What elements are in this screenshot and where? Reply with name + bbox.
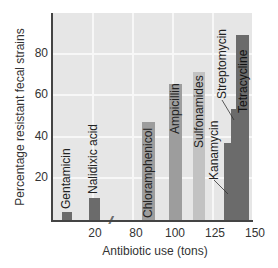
x-tick-125: 125 bbox=[200, 226, 230, 240]
y-tick-60: 60 bbox=[28, 88, 48, 100]
label-ampicillin: Ampicillin bbox=[169, 83, 182, 134]
y-tick-20: 20 bbox=[28, 171, 48, 183]
label-nalidixic-acid: Nalidixic acid bbox=[87, 124, 100, 194]
y-axis-label: Percentage resistant fecal strains bbox=[13, 28, 27, 205]
bar-nalidixic-acid bbox=[89, 198, 100, 221]
label-kanamycin: Kanamycin bbox=[208, 121, 221, 180]
y-axis bbox=[51, 13, 53, 222]
label-gentamicin: Gentamicin bbox=[60, 148, 73, 209]
x-tick-20: 20 bbox=[80, 226, 110, 240]
x-tick-150: 150 bbox=[240, 226, 270, 240]
label-streptomycin: Streptomycin bbox=[216, 29, 229, 99]
y-tick-80: 80 bbox=[28, 47, 48, 59]
x-axis-label: Antibiotic use (tons) bbox=[102, 244, 207, 258]
label-sulfonamides: Sulfonamides bbox=[193, 75, 206, 148]
label-tetracycline: Tetracycline bbox=[237, 50, 250, 113]
x-tick-80: 80 bbox=[121, 226, 151, 240]
chart: // 20 40 60 80 20 80 100 125 150 Percent… bbox=[0, 0, 278, 268]
label-chloramphenicol: Chloramphenicol bbox=[142, 128, 155, 218]
axis-break: // bbox=[109, 214, 111, 226]
gridline-v-2 bbox=[132, 13, 134, 221]
x-tick-100: 100 bbox=[160, 226, 190, 240]
x-axis bbox=[51, 220, 253, 222]
gridline-v-4 bbox=[212, 13, 214, 221]
y-tick-40: 40 bbox=[28, 130, 48, 142]
